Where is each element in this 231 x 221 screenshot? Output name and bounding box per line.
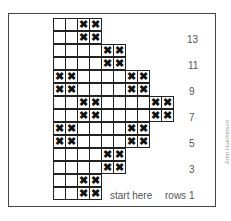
grid-cell: ✖ [161,109,174,122]
grid-cell: ✖ [89,174,102,187]
row-label-7: 7 [189,112,195,123]
grid-cell: ✖ [137,122,150,135]
grid-row: ✖✖✖✖ [53,135,173,148]
row-label-13: 13 [187,34,198,45]
knitting-grid: ✖✖✖✖✖✖✖✖✖✖✖✖✖✖✖✖✖✖✖✖✖✖✖✖✖✖✖✖✖✖✖✖✖✖✖✖✖✖✖✖ [53,18,173,200]
start-here-label: start here [110,190,152,201]
grid-cell: ✖ [113,161,126,174]
grid-row: ✖✖ [53,18,173,31]
grid-row: ✖✖✖✖ [53,109,173,122]
grid-row: ✖✖ [53,31,173,44]
grid-cell: ✖ [137,135,150,148]
row-label-5: 5 [189,138,195,149]
row-label-3: 3 [189,164,195,175]
rows-1-label: rows 1 [165,190,194,201]
grid-cell: ✖ [113,44,126,57]
grid-cell: ✖ [137,83,150,96]
grid-cell: ✖ [89,187,102,200]
row-label-9: 9 [189,86,195,97]
grid-cell: ✖ [113,57,126,70]
grid-row: ✖✖ [53,44,173,57]
grid-row: ✖✖ [53,148,173,161]
grid-row: ✖✖ [53,161,173,174]
grid-row: ✖✖ [53,57,173,70]
photo-credit: John Hutchinson [224,120,230,165]
grid-row: ✖✖ [53,174,173,187]
grid-cell: ✖ [113,148,126,161]
grid-row: ✖✖✖✖ [53,70,173,83]
grid-row: ✖✖✖✖ [53,96,173,109]
grid-row: ✖✖✖✖ [53,122,173,135]
grid-row: ✖✖✖✖ [53,83,173,96]
row-label-11: 11 [188,60,198,71]
grid-cell: ✖ [161,96,174,109]
grid-cell: ✖ [89,31,102,44]
grid-cell: ✖ [137,70,150,83]
grid-cell: ✖ [89,18,102,31]
